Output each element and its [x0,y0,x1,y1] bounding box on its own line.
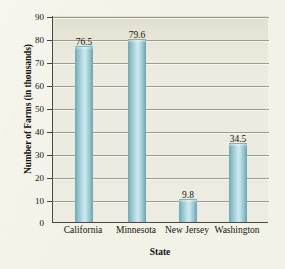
gridline-90 [53,17,269,18]
y-axis-tick-label-40: 40 [22,128,44,137]
y-axis-tick-label-80: 80 [22,36,44,45]
y-axis-tick-label-60: 60 [22,82,44,91]
y-axis-tick-label-0: 0 [22,219,44,228]
y-axis-tick-label-20: 20 [22,174,44,183]
bar-new-jersey[interactable] [179,199,197,222]
y-axis-tick-label-50: 50 [22,105,44,114]
bar-value-label-california: 76.5 [61,38,107,48]
bar-value-label-new-jersey: 9.8 [165,191,211,201]
y-axis-tick-label-70: 70 [22,59,44,68]
y-axis-tick-label-10: 10 [22,197,44,206]
bar-washington[interactable] [229,143,247,222]
bar-value-label-minnesota: 79.6 [114,31,160,41]
bar-minnesota[interactable] [128,39,146,222]
x-axis-label-washington: Washington [204,226,270,236]
bar-chart-figure: Number of Farms (in thousands) 90 80 70 … [0,0,285,269]
x-axis-title: State [52,247,268,257]
y-axis-tick-label-30: 30 [22,151,44,160]
bar-value-label-washington: 34.5 [215,135,261,145]
y-axis-tick-label-90: 90 [22,13,44,22]
bar-california[interactable] [75,46,93,222]
